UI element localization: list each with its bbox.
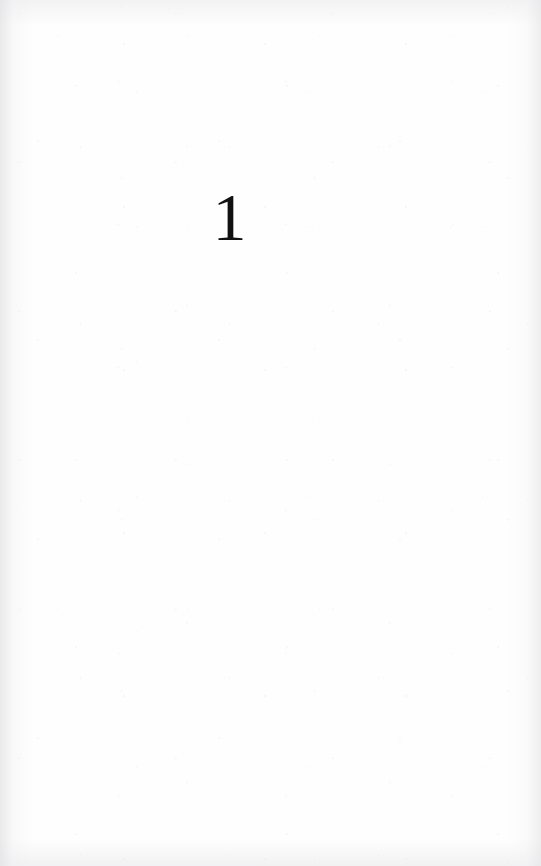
chapter-number: 1 xyxy=(213,183,247,251)
chapter-number-block: 1 xyxy=(0,183,459,251)
scanned-page: 1 xyxy=(0,0,541,866)
scan-edge-shading-bottom xyxy=(0,840,541,866)
scan-edge-shading-left xyxy=(0,0,34,866)
scan-edge-shading-top xyxy=(0,0,541,26)
scan-edge-shading-right xyxy=(507,0,541,866)
paper-grain-texture xyxy=(0,0,541,866)
